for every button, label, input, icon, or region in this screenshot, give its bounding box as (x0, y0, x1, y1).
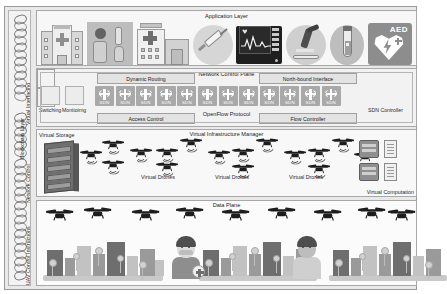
medical-equipment-icon (87, 22, 133, 65)
virtual-infrastructure-manager-panel: Virtual Infrastructure Manager Virtual S… (36, 129, 417, 197)
drone-icon (389, 209, 414, 225)
virtual-computation-server-2 (359, 163, 379, 181)
drone-icon (233, 148, 253, 161)
drone-icon (177, 207, 202, 223)
drone-icon (85, 207, 110, 223)
drone-icon (257, 138, 277, 151)
drone-icon (309, 148, 329, 161)
rail-label-network-control: Network Control (25, 164, 31, 203)
drone-icon (209, 150, 229, 163)
aed-label: AED (390, 25, 408, 34)
application-icon-row: AED (41, 22, 412, 65)
drone-icon (157, 162, 177, 175)
blood-vial-icon (330, 22, 364, 65)
data-plane-panel: Data Plane (36, 200, 417, 286)
ecg-monitor-icon (236, 22, 282, 65)
blockchain-rail: Virtual Interfacing Blockchain Layer Net… (8, 10, 31, 286)
virtual-drones-label-1: Virtual Drones (141, 174, 175, 180)
rail-label-blockchain-layer: Blockchain Layer (19, 118, 25, 159)
virtual-computation-doc-2 (384, 163, 397, 181)
virtual-storage-label: Virtual Storage (39, 132, 75, 138)
drone-icon (181, 138, 201, 151)
drone-icon (223, 209, 248, 225)
patient-healthy-figure (290, 233, 324, 279)
microscope-icon (286, 22, 326, 65)
drone-icon (103, 140, 123, 153)
drone-icon (131, 148, 151, 161)
drone-icon (269, 207, 294, 223)
data-plane-title: Data Plane (210, 202, 244, 208)
sdn-controller-box-2[interactable] (37, 88, 55, 107)
virtual-computation-server-1 (359, 140, 379, 158)
virtual-computation-label: Virtual Computation (367, 189, 414, 195)
hospital-icon (41, 22, 83, 65)
syringe-icon (193, 22, 233, 65)
application-layer-panel: Application Layer (36, 10, 417, 66)
drone-icon (315, 209, 340, 225)
virtual-computation-doc-1 (384, 140, 397, 158)
cityscape (329, 235, 447, 281)
network-control-plane-panel: Network Control Plane Dynamic Routing No… (36, 68, 417, 127)
clinic-icon (137, 22, 189, 65)
drone-icon (47, 209, 72, 225)
virtual-storage-rack-icon (44, 140, 74, 193)
virtual-drones-label-3: Virtual Drones (289, 174, 323, 180)
virtual-drones-label-2: Virtual Drones (215, 174, 249, 180)
drone-icon (359, 207, 384, 223)
drone-icon (133, 209, 158, 225)
drone-icon (333, 138, 353, 151)
rail-label-uav-control-instructions: UAV Control Instructions (25, 226, 31, 285)
drone-icon (81, 150, 101, 163)
drone-icon (103, 160, 123, 173)
rail-label-virtual-interfacing: Virtual Interfacing (25, 83, 31, 125)
drone-icon (285, 150, 305, 163)
drone-icon (157, 148, 177, 161)
application-layer-title: Application Layer (202, 13, 251, 19)
sdn-controller-label: SDN Controller (368, 107, 403, 113)
patient-sick-figure (169, 233, 203, 279)
virtual-infrastructure-manager-title: Virtual Infrastructure Manager (187, 131, 267, 137)
aed-icon: AED (368, 22, 412, 65)
cityscape (43, 235, 163, 281)
